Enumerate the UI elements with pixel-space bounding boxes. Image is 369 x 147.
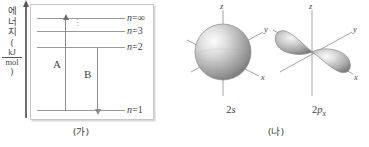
orbital-2s-graphic: z y x: [185, 0, 277, 115]
axis-label-close-paren: ): [2, 67, 22, 78]
orbital-2px-lobe-negative: [275, 31, 312, 55]
panel-energy-level-diagram: 에 너 지 ( kJ mol ) ⋮ n=∞ n: [0, 0, 185, 147]
axis-label-y-2s: y: [263, 24, 268, 34]
energy-axis-arrow: [25, 6, 27, 118]
orbital-2s: z y x 2s: [185, 0, 277, 130]
axis-label-x-2s: x: [260, 72, 265, 82]
level-label-value-n-1: 1: [138, 104, 143, 115]
energy-axis-label: 에 너 지 ( kJ mol ): [2, 6, 22, 84]
orbital-2s-type: s: [232, 104, 236, 115]
figure-root: 에 너 지 ( kJ mol ) ⋮ n=∞ n: [0, 0, 369, 147]
energy-plot-box: ⋮ n=∞ n=3 n=2 n=1 A B: [30, 4, 154, 120]
axis-label-char-3: 지: [2, 27, 22, 38]
level-label-n-2: n=2: [127, 41, 143, 52]
level-label-n-infinity: n=∞: [127, 12, 145, 23]
orbital-caption-2px: 2px: [273, 104, 365, 118]
transition-label-b: B: [84, 68, 91, 80]
axis-label-x-2px: x: [353, 72, 358, 82]
orbital-caption-2s: 2s: [185, 104, 277, 115]
level-label-value-n-2: 2: [138, 41, 143, 52]
transition-label-a: A: [53, 58, 61, 70]
orbital-2px: z y x 2px: [271, 0, 363, 130]
axis-label-unit-denominator: mol: [2, 58, 22, 67]
level-ellipsis: ⋮: [73, 19, 82, 28]
level-label-n-1: n=1: [127, 104, 143, 115]
axis-label-char-1: 에: [2, 6, 22, 17]
orbital-2s-sphere: [195, 24, 251, 80]
orbital-2px-graphic: z y x: [271, 0, 367, 115]
level-line-n-2: [37, 47, 125, 48]
axis-label-z-2px: z: [308, 1, 313, 11]
orbital-2px-subscript: x: [323, 109, 326, 118]
transition-arrow-b: [97, 48, 98, 110]
axis-label-unit-fraction: kJ mol: [2, 48, 22, 67]
axis-label-z-2s: z: [219, 1, 224, 11]
axis-label-y-2px: y: [352, 24, 357, 34]
level-label-n-3: n=3: [127, 25, 143, 36]
panel-caption-ga: (가): [50, 124, 112, 138]
orbital-2px-lobe-positive: [312, 49, 350, 73]
panel-caption-na: (나): [245, 124, 307, 138]
level-line-n-3: [37, 31, 125, 32]
level-line-n-1: [37, 110, 125, 111]
transition-arrow-a: [65, 19, 66, 111]
level-label-value-n-3: 3: [138, 25, 143, 36]
level-label-value-n-infinity: ∞: [138, 12, 145, 23]
panel-orbitals: z y x 2s: [185, 0, 369, 147]
